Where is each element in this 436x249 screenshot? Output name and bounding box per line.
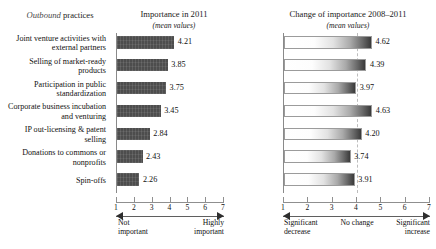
bar-track xyxy=(284,150,351,162)
axis-tick xyxy=(332,197,333,202)
anchor-line-2: important xyxy=(176,228,224,237)
category-label: Donations to commons ornonprofits xyxy=(2,148,106,167)
bar-row: 3.91 xyxy=(283,170,430,193)
axis-tick xyxy=(152,197,153,202)
header-importance-subtitle: (mean values) xyxy=(118,21,230,32)
bar xyxy=(117,150,143,162)
anchor-label-no-change: No change xyxy=(334,219,380,228)
column-header-practices: Outbound practices xyxy=(4,10,116,21)
bar-track xyxy=(117,36,174,48)
bar-row: 3.85 xyxy=(116,56,224,79)
bar-track xyxy=(117,105,161,117)
bar-rows-change: 4.624.393.974.634.203.743.91 xyxy=(283,33,430,193)
category-label-line: nonprofits xyxy=(2,158,106,168)
bar-track xyxy=(117,150,143,162)
bar-value-label: 3.74 xyxy=(354,150,368,163)
bar xyxy=(117,105,161,117)
bar-value-label: 2.84 xyxy=(153,127,167,140)
bar-value-label: 2.43 xyxy=(146,150,160,163)
category-label: Selling of market-readyproducts xyxy=(2,57,106,76)
bar-row: 3.75 xyxy=(116,79,224,102)
bar xyxy=(284,105,372,117)
bar xyxy=(284,59,366,71)
bar-track xyxy=(117,82,166,94)
bar-track xyxy=(284,82,356,94)
axis-tick xyxy=(405,197,406,202)
header-importance-title: Importance in 2011 xyxy=(141,9,208,19)
anchor-label-not-important: Not important xyxy=(118,219,164,237)
bar-row: 2.43 xyxy=(116,147,224,170)
bar-track xyxy=(284,173,355,185)
axis-tick xyxy=(187,197,188,202)
bar-track xyxy=(284,59,366,71)
category-label-line: and venturing xyxy=(2,112,106,122)
bar-row: 3.97 xyxy=(283,79,430,102)
bar-row: 3.74 xyxy=(283,147,430,170)
axis-tick xyxy=(134,197,135,202)
axis-tick xyxy=(429,197,430,202)
category-label: Spin-offs xyxy=(2,176,106,186)
bar-row: 2.26 xyxy=(116,170,224,193)
bar xyxy=(117,173,139,185)
header-change-subtitle: (mean values) xyxy=(262,21,434,32)
bar-track xyxy=(117,173,139,185)
anchor-label-significant-increase: Significant increase xyxy=(382,219,430,237)
header-change-title: Change of importance 2008–2011 xyxy=(290,9,407,19)
bar-value-label: 4.39 xyxy=(370,58,384,71)
category-label-line: products xyxy=(2,66,106,76)
bar xyxy=(117,128,150,140)
arrow-shaft-right xyxy=(283,216,430,217)
bar-rows-importance: 4.213.853.753.452.842.432.26 xyxy=(116,33,224,193)
bar-track xyxy=(117,59,168,71)
category-label-line: Joint venture activities with xyxy=(2,34,106,44)
category-label-line: Selling of market-ready xyxy=(2,57,106,67)
bar xyxy=(284,36,372,48)
bar-value-label: 4.20 xyxy=(365,127,379,140)
bar-value-label: 4.62 xyxy=(376,35,390,48)
header-rest: practices xyxy=(61,10,94,20)
category-label-line: Spin-offs xyxy=(2,176,106,186)
bar-value-label: 3.75 xyxy=(170,81,184,94)
axis-tick xyxy=(283,197,284,202)
category-label-line: external partners xyxy=(2,43,106,53)
axis-tick xyxy=(223,197,224,202)
category-label-line: IP out-licensing & patent xyxy=(2,125,106,135)
chart-panel-importance: 4.213.853.753.452.842.432.26 xyxy=(116,33,224,193)
arrow-shaft-left xyxy=(116,216,224,217)
bar-value-label: 3.85 xyxy=(171,58,185,71)
bar xyxy=(284,82,356,94)
axis-tick xyxy=(356,197,357,202)
bar-row: 3.45 xyxy=(116,102,224,125)
bar-track xyxy=(117,128,150,140)
figure-root: Outbound practices Importance in 2011 (m… xyxy=(0,0,436,249)
bar-value-label: 3.91 xyxy=(358,173,372,186)
bar-row: 4.39 xyxy=(283,56,430,79)
bar xyxy=(284,173,355,185)
category-label: Corporate business incubationand venturi… xyxy=(2,102,106,121)
bar-track xyxy=(284,36,372,48)
category-label: Participation in publicstandardization xyxy=(2,80,106,99)
anchor-line-1: No change xyxy=(334,219,380,228)
anchor-label-significant-decrease: Significant decrease xyxy=(284,219,332,237)
bar-value-label: 3.97 xyxy=(360,81,374,94)
category-label-line: standardization xyxy=(2,89,106,99)
category-label-line: Participation in public xyxy=(2,80,106,90)
header-emphasis: Outbound xyxy=(26,10,60,20)
bar xyxy=(284,128,362,140)
axis-tick xyxy=(307,197,308,202)
category-label: IP out-licensing & patentselling xyxy=(2,125,106,144)
bar-row: 4.20 xyxy=(283,124,430,147)
bar xyxy=(117,36,174,48)
bar xyxy=(117,59,168,71)
bar-value-label: 2.26 xyxy=(143,173,157,186)
category-label: Joint venture activities withexternal pa… xyxy=(2,34,106,53)
bar-value-label: 4.21 xyxy=(178,35,192,48)
axis-tick xyxy=(205,197,206,202)
axis-tick xyxy=(380,197,381,202)
axis-tick xyxy=(170,197,171,202)
bar-value-label: 3.45 xyxy=(164,104,178,117)
category-label-line: Corporate business incubation xyxy=(2,102,106,112)
anchor-label-highly-important: Highly important xyxy=(176,219,224,237)
bar xyxy=(117,82,166,94)
chart-panel-change: 4.624.393.974.634.203.743.91 xyxy=(283,33,430,193)
